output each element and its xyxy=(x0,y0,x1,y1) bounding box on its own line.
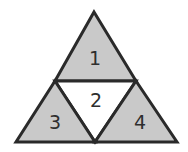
region-3-label: 3 xyxy=(49,111,61,133)
triangle-diagram: 1 2 3 4 xyxy=(0,0,188,152)
diagram-canvas: 1 2 3 4 xyxy=(0,0,188,152)
region-4-label: 4 xyxy=(134,111,146,133)
region-2-label: 2 xyxy=(90,89,102,111)
region-1-label: 1 xyxy=(89,47,101,69)
